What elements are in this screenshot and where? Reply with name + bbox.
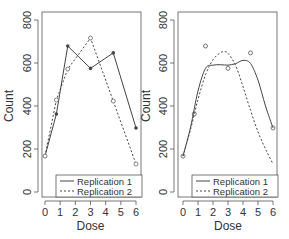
x-axis-label: Dose bbox=[76, 219, 104, 233]
panel-2: 0200400600800Count0123456DoseReplication… bbox=[139, 11, 278, 233]
data-point bbox=[55, 112, 59, 116]
y-axis-label: Count bbox=[139, 89, 153, 122]
x-tick-label: 6 bbox=[270, 206, 276, 218]
data-point bbox=[43, 154, 47, 158]
data-point bbox=[111, 99, 115, 103]
data-point bbox=[66, 67, 70, 71]
panel-1: 0200400600800Count0123456DoseReplication… bbox=[2, 11, 142, 233]
y-tick-label: 400 bbox=[157, 97, 169, 115]
y-tick-label: 400 bbox=[21, 97, 33, 115]
series-line-1 bbox=[45, 46, 136, 156]
x-tick-label: 4 bbox=[240, 206, 246, 218]
x-tick-label: 6 bbox=[133, 206, 139, 218]
x-axis-label: Dose bbox=[214, 219, 242, 233]
y-tick-label: 0 bbox=[157, 189, 169, 195]
y-tick-label: 200 bbox=[21, 140, 33, 158]
series-line-1 bbox=[183, 60, 273, 156]
x-tick-label: 5 bbox=[118, 206, 124, 218]
y-tick-label: 800 bbox=[21, 11, 33, 29]
legend-label-2: Replication 2 bbox=[213, 186, 268, 197]
x-tick-label: 3 bbox=[225, 206, 231, 218]
y-tick-label: 0 bbox=[21, 189, 33, 195]
y-tick-label: 800 bbox=[157, 11, 169, 29]
data-point bbox=[134, 162, 138, 166]
data-point bbox=[249, 51, 253, 55]
x-tick-label: 1 bbox=[57, 206, 63, 218]
y-axis-label: Count bbox=[2, 89, 16, 122]
x-tick-label: 1 bbox=[195, 206, 201, 218]
legend-label-2: Replication 2 bbox=[77, 186, 132, 197]
data-point bbox=[111, 51, 115, 55]
x-tick-label: 5 bbox=[255, 206, 261, 218]
y-tick-label: 200 bbox=[157, 140, 169, 158]
data-point bbox=[54, 98, 58, 102]
data-point bbox=[89, 67, 93, 71]
x-tick-label: 4 bbox=[103, 206, 109, 218]
y-tick-label: 600 bbox=[157, 54, 169, 72]
x-tick-label: 2 bbox=[72, 206, 78, 218]
data-point bbox=[66, 44, 70, 48]
data-point bbox=[89, 36, 93, 40]
plot-frame bbox=[178, 12, 277, 197]
chart-figure: 0200400600800Count0123456DoseReplication… bbox=[0, 0, 289, 239]
x-tick-label: 3 bbox=[87, 206, 93, 218]
x-tick-label: 0 bbox=[42, 206, 48, 218]
y-tick-label: 600 bbox=[21, 54, 33, 72]
series-line-2 bbox=[183, 52, 273, 164]
data-point bbox=[204, 44, 208, 48]
x-tick-label: 2 bbox=[210, 206, 216, 218]
data-point bbox=[134, 126, 138, 130]
data-point bbox=[226, 66, 230, 70]
x-tick-label: 0 bbox=[180, 206, 186, 218]
